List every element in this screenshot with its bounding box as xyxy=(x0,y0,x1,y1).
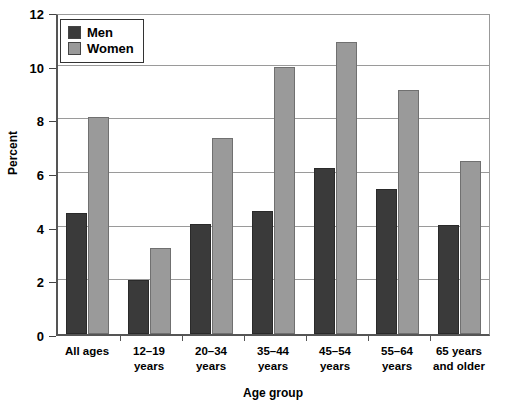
y-tick-label-8: 8 xyxy=(0,114,44,129)
bar-group xyxy=(306,15,368,334)
y-tick-label-12: 12 xyxy=(0,7,44,22)
y-tick-mark-2 xyxy=(49,282,56,283)
bar-men xyxy=(190,224,211,334)
x-tick-mark xyxy=(368,334,369,341)
x-label-line: years xyxy=(304,359,366,374)
legend-item-men: Men xyxy=(68,25,134,41)
legend-swatch-men-icon xyxy=(68,26,81,39)
x-axis-labels: All ages12–19years20–34years35–44years45… xyxy=(56,344,490,386)
x-tick-mark xyxy=(430,334,431,341)
bar-women xyxy=(88,117,109,334)
x-label-line: and older xyxy=(428,359,490,374)
y-tick-mark-8 xyxy=(49,121,56,122)
y-tick-label-4: 4 xyxy=(0,221,44,236)
x-axis-label: 20–34years xyxy=(180,344,242,375)
x-label-line: 55–64 xyxy=(366,344,428,359)
x-axis-label: 12–19years xyxy=(118,344,180,375)
bar-group xyxy=(120,15,182,334)
y-tick-mark-4 xyxy=(49,229,56,230)
x-tick-mark xyxy=(120,334,121,341)
bar-men xyxy=(376,189,397,334)
y-tick-label-6: 6 xyxy=(0,168,44,183)
legend: Men Women xyxy=(60,19,144,63)
bar-group xyxy=(430,15,492,334)
bar-men xyxy=(128,280,149,334)
x-label-line: 35–44 xyxy=(242,344,304,359)
bar-groups xyxy=(58,15,489,334)
x-tick-mark xyxy=(306,334,307,341)
bar-women xyxy=(460,161,481,334)
y-tick-mark-12 xyxy=(49,14,56,15)
bar-men xyxy=(314,168,335,334)
bar-women xyxy=(150,248,171,334)
x-label-line: years xyxy=(366,359,428,374)
y-tick-label-10: 10 xyxy=(0,60,44,75)
x-axis-label: 55–64years xyxy=(366,344,428,375)
bar-chart: Percent 024681012 Men Women All ages12–1… xyxy=(0,0,506,404)
legend-label-women: Women xyxy=(87,41,134,57)
bar-group xyxy=(58,15,120,334)
bar-men xyxy=(252,211,273,334)
bar-men xyxy=(66,213,87,334)
legend-item-women: Women xyxy=(68,41,134,57)
x-label-line: years xyxy=(180,359,242,374)
legend-label-men: Men xyxy=(87,25,113,41)
x-label-line: years xyxy=(118,359,180,374)
y-tick-mark-10 xyxy=(49,68,56,69)
bar-women xyxy=(336,42,357,334)
bar-group xyxy=(368,15,430,334)
x-axis-label: 35–44years xyxy=(242,344,304,375)
x-axis-label: All ages xyxy=(56,344,118,359)
y-tick-mark-0 xyxy=(49,336,56,337)
x-label-line: All ages xyxy=(56,344,118,359)
y-tick-mark-6 xyxy=(49,175,56,176)
bar-men xyxy=(438,225,459,334)
x-axis-label: 45–54years xyxy=(304,344,366,375)
x-axis-title: Age group xyxy=(56,386,490,400)
x-tick-mark xyxy=(182,334,183,341)
legend-swatch-women-icon xyxy=(68,42,81,55)
bar-group xyxy=(182,15,244,334)
x-tick-mark xyxy=(244,334,245,341)
bar-women xyxy=(212,138,233,334)
y-tick-label-2: 2 xyxy=(0,275,44,290)
x-axis-label: 65 yearsand older xyxy=(428,344,490,375)
y-tick-label-0: 0 xyxy=(0,329,44,344)
x-label-line: 45–54 xyxy=(304,344,366,359)
x-label-line: 20–34 xyxy=(180,344,242,359)
x-label-line: 12–19 xyxy=(118,344,180,359)
bar-group xyxy=(244,15,306,334)
bar-women xyxy=(274,67,295,334)
bar-women xyxy=(398,90,419,334)
x-label-line: years xyxy=(242,359,304,374)
x-label-line: 65 years xyxy=(428,344,490,359)
